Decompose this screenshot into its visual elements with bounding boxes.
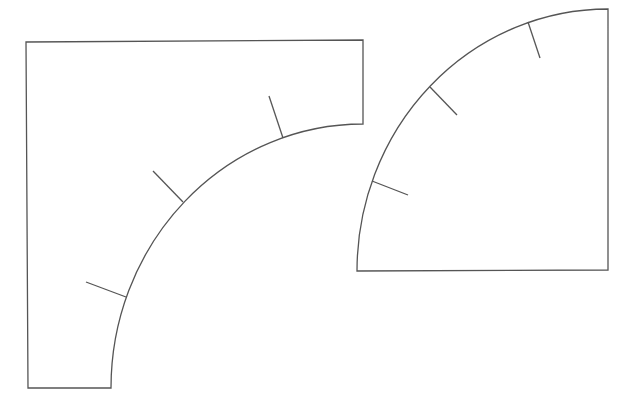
arc-tick-mark	[269, 96, 283, 138]
shape-outline	[357, 9, 608, 271]
diagram-canvas	[0, 0, 637, 407]
arc-tick-mark	[528, 22, 540, 58]
arc-tick-mark	[86, 282, 126, 297]
shape-outline	[26, 40, 363, 388]
shape-rectangle-with-concave-arc	[26, 40, 363, 388]
arc-tick-mark	[372, 181, 408, 195]
shape-quarter-circle-sector	[357, 9, 608, 271]
diagram-svg	[0, 0, 637, 407]
arc-tick-mark	[153, 171, 183, 202]
arc-tick-mark	[430, 87, 457, 115]
